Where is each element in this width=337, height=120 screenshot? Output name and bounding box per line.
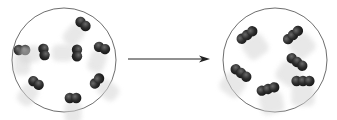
- atom: [304, 76, 314, 86]
- right-container: [217, 8, 327, 116]
- atom: [72, 51, 82, 61]
- atom: [71, 93, 81, 103]
- reaction-diagram: [0, 0, 337, 120]
- triatomic-molecule: [291, 76, 314, 106]
- left-container: [12, 8, 122, 120]
- motion-trail: [65, 101, 82, 120]
- motion-trail: [52, 45, 74, 62]
- diatomic-molecule: [65, 93, 82, 120]
- reaction-arrow: [128, 56, 210, 63]
- motion-trail: [291, 84, 314, 106]
- diatomic-molecule: [52, 45, 82, 62]
